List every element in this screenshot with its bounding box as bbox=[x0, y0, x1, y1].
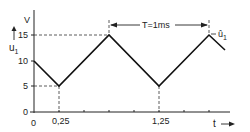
period-label: T=1ms bbox=[142, 20, 170, 30]
x-var-arrow-icon bbox=[221, 122, 235, 127]
x-var-label: t bbox=[213, 118, 216, 129]
x-tick-125: 1,25 bbox=[152, 116, 170, 126]
dashed-guides bbox=[34, 20, 209, 112]
y-unit-label: V bbox=[24, 15, 30, 25]
triangle-wave-diagram: T=1ms û1 V 15 10 5 0 u1 0 0,25 1,25 t bbox=[0, 0, 250, 132]
y-tick-0: 0 bbox=[23, 107, 28, 117]
peak-label: û1 bbox=[218, 29, 227, 41]
y-tick-15: 15 bbox=[18, 30, 28, 40]
x-tick-0: 0 bbox=[31, 118, 36, 128]
y-var-label: u1 bbox=[9, 42, 19, 55]
x-tick-025: 0,25 bbox=[52, 116, 70, 126]
y-tick-10: 10 bbox=[18, 56, 28, 66]
y-tick-5: 5 bbox=[23, 81, 28, 91]
y-var-arrow-icon bbox=[12, 26, 17, 40]
triangle-waveform bbox=[34, 35, 225, 86]
